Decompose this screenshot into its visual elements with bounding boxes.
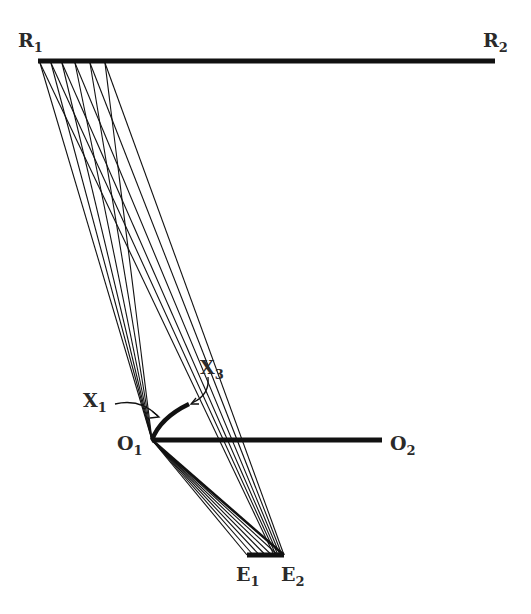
label-R2: R2 [483, 29, 508, 55]
label-X3: X3 [200, 356, 224, 382]
label-O2: O2 [390, 432, 416, 458]
ray-through-arc [62, 63, 278, 555]
ray-through-arc [75, 63, 280, 555]
label-X1: X1 [83, 389, 107, 415]
ray-to-O1 [40, 63, 152, 440]
ray-O1-to-E [152, 440, 259, 555]
label-E1: E1 [236, 563, 260, 589]
ray-O1-to-E [152, 440, 253, 555]
ray-diagram: R1 R2 O1 O2 E1 E2 X1 X3 [0, 0, 531, 614]
label-E2: E2 [281, 563, 305, 589]
arrow-X1 [115, 403, 158, 417]
ray-through-arc [51, 63, 276, 555]
label-O1: O1 [117, 432, 143, 458]
label-R1: R1 [18, 29, 43, 55]
ray-O1-to-E [152, 440, 247, 555]
arc-X1-X3 [152, 404, 189, 440]
ray-to-O1 [90, 63, 152, 440]
ray-O1-to-E2-edge [152, 440, 284, 555]
ray-through-arc [40, 63, 274, 555]
diagram-lines [38, 61, 495, 555]
ray-to-O1 [62, 63, 152, 440]
